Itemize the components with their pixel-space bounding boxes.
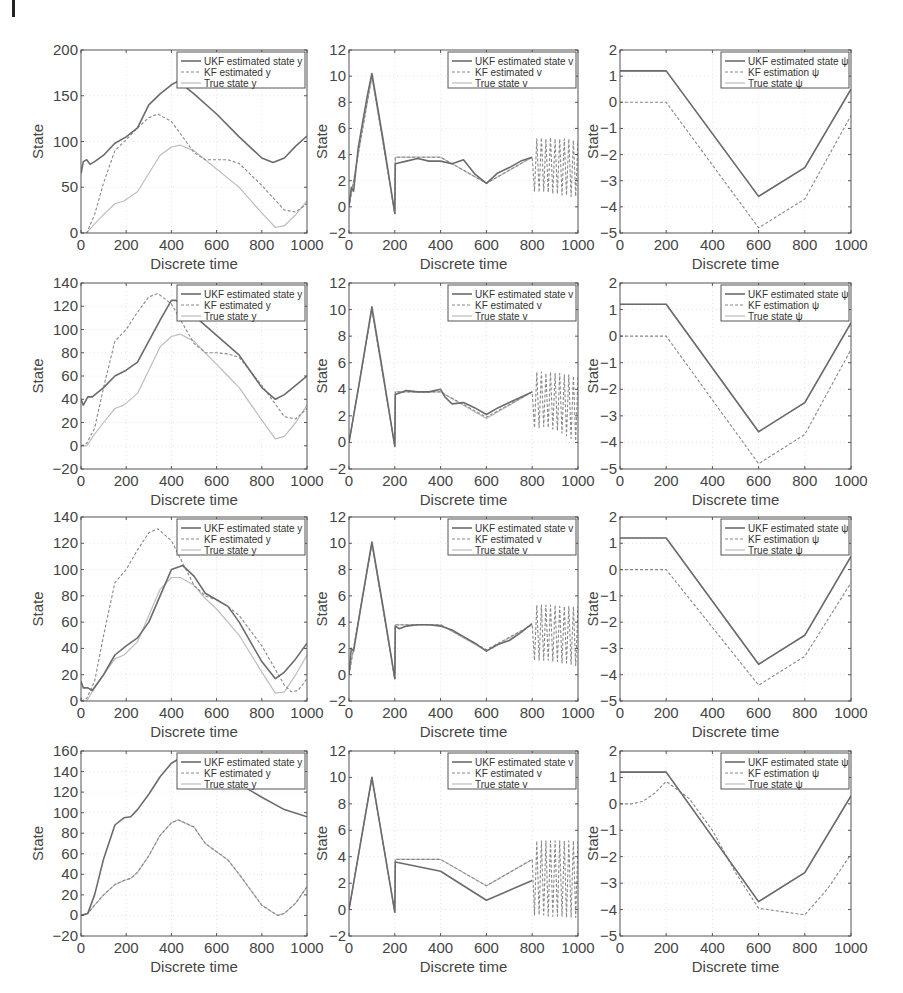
y-tick-label: 0 [70,437,78,454]
legend: UKF estimated state yKF estimated yTrue … [177,52,305,89]
y-tick-label: 1 [609,301,617,318]
legend-entry: True state y [204,311,256,322]
true-series-line [81,145,307,233]
plot-r3-c2: 02004006008001000−2024681012Discrete tim… [349,517,578,701]
x-tick-label: 1000 [561,704,594,721]
x-tick-label: 400 [159,704,184,721]
x-tick-label: 1000 [834,472,867,489]
y-tick-label: −3 [600,407,617,424]
y-tick-label: 20 [61,666,78,683]
x-tick-label: 200 [654,704,679,721]
y-tick-label: 60 [61,845,78,862]
x-tick-label: 600 [474,472,499,489]
series-group [349,74,578,214]
legend: UKF estimated state vKF estimated vTrue … [448,753,576,790]
plot-r4-c2: 02004006008001000−2024681012Discrete tim… [349,751,578,936]
y-tick-label: −5 [600,927,617,944]
y-tick-label: 4 [338,146,346,163]
y-tick-label: 140 [53,508,78,525]
x-tick-label: 1000 [561,236,594,253]
y-tick-label: 0 [609,93,617,110]
plot-r4-c3: 02004006008001000−5−4−3−2−1012Discrete t… [620,751,851,936]
y-tick-label: −2 [329,460,346,477]
y-tick-label: −3 [600,639,617,656]
y-tick-label: 40 [61,639,78,656]
y-tick-label: 0 [609,561,617,578]
x-tick-label: 800 [249,704,274,721]
y-tick-label: 10 [329,768,346,785]
y-tick-label: 80 [61,344,78,361]
y-tick-label: 4 [338,848,346,865]
y-tick-label: 0 [338,433,346,450]
legend-entry: True state v [475,779,527,790]
true-series-line [349,543,532,678]
y-tick-label: 150 [53,87,78,104]
x-tick-label: 400 [700,704,725,721]
y-tick-label: 12 [329,508,346,525]
y-tick-label: −4 [600,901,617,918]
y-tick-label: 2 [338,172,346,189]
series-group [349,307,578,447]
legend: UKF estimated state vKF estimated vTrue … [448,52,576,89]
y-tick-label: 2 [609,274,617,291]
y-tick-label: 20 [61,414,78,431]
x-tick-label: 400 [428,939,453,956]
series-group [620,772,851,915]
y-tick-label: 6 [338,587,346,604]
x-tick-label: 1000 [561,472,594,489]
x-tick-label: 600 [746,472,771,489]
y-axis-label: State [584,358,601,393]
x-tick-label: 600 [204,472,229,489]
true-series-line [620,538,851,664]
y-tick-label: 1 [609,534,617,551]
y-tick-label: 160 [53,742,78,759]
y-tick-label: 4 [338,613,346,630]
y-tick-label: 2 [609,508,617,525]
x-tick-label: 0 [616,939,624,956]
y-axis-label: State [584,124,601,159]
x-tick-label: 400 [428,236,453,253]
y-tick-label: −3 [600,874,617,891]
y-tick-label: 60 [61,613,78,630]
x-tick-label: 0 [77,472,85,489]
legend: UKF estimated state ψKF estimation ψTrue… [721,753,849,790]
y-tick-label: 50 [61,178,78,195]
kf-series-line [620,570,851,686]
y-tick-label: −4 [600,433,617,450]
x-tick-label: 600 [474,704,499,721]
legend-entry: UKF estimated state ψ [748,523,849,534]
legend-entry: True state v [475,78,527,89]
x-tick-label: 800 [249,939,274,956]
y-tick-label: 8 [338,561,346,578]
y-tick-label: 120 [53,783,78,800]
plot-r2-c3: 02004006008001000−5−4−3−2−1012Discrete t… [620,283,851,469]
x-tick-label: 400 [159,472,184,489]
legend-entry: KF estimated v [475,534,542,545]
x-axis-label: Discrete time [150,491,238,508]
y-tick-label: 8 [338,795,346,812]
x-tick-label: 0 [345,939,353,956]
legend: UKF estimated state ψKF estimation ψTrue… [721,519,849,556]
legend-entry: True state ψ [748,545,803,556]
ukf-series-line [620,772,851,902]
legend-entry: KF estimated v [475,768,542,779]
y-tick-label: 80 [61,824,78,841]
x-tick-label: 1000 [290,472,323,489]
y-tick-label: 1 [609,768,617,785]
x-tick-label: 200 [654,236,679,253]
y-tick-label: −5 [600,460,617,477]
plot-r3-c3: 02004006008001000−5−4−3−2−1012Discrete t… [620,517,851,701]
x-axis-label: Discrete time [150,958,238,975]
plot-r2-c2: 02004006008001000−2024681012Discrete tim… [349,283,578,469]
y-tick-label: −2 [600,848,617,865]
x-tick-label: 0 [345,472,353,489]
x-tick-label: 0 [345,236,353,253]
y-tick-label: 12 [329,274,346,291]
legend-entry: True state ψ [748,779,803,790]
ukf-series-line [81,566,307,691]
y-axis-label: State [29,358,46,393]
x-tick-label: 200 [114,939,139,956]
x-tick-label: 0 [345,704,353,721]
x-tick-label: 200 [654,472,679,489]
x-tick-label: 0 [77,704,85,721]
